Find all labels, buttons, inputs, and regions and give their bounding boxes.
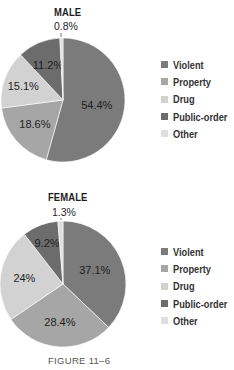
slice-label-violent: 54.4% — [81, 99, 112, 111]
legend-label: Other — [173, 315, 198, 327]
legend-swatch-violent — [161, 248, 168, 255]
male-legend: Violent Property Drug Public-order Other — [161, 56, 234, 142]
legend-label: Violent — [173, 59, 204, 71]
slice-label-public-order: 11.2% — [33, 59, 64, 71]
legend-swatch-violent — [161, 61, 168, 68]
legend-swatch-public-order — [161, 300, 168, 307]
female-chart-panel: 37.1%28.4%24%9.2% FEMALE 1.3% Violent Pr… — [0, 185, 234, 370]
legend-swatch-other — [161, 130, 168, 137]
legend-item-property: Property — [161, 260, 234, 277]
legend-label: Drug — [173, 93, 195, 105]
legend-item-property: Property — [161, 73, 234, 90]
legend-label: Public-order — [173, 298, 227, 310]
female-other-label: 1.3% — [52, 206, 76, 218]
legend-swatch-property — [161, 265, 168, 272]
male-other-label: 0.8% — [54, 20, 78, 32]
legend-item-other: Other — [161, 312, 234, 329]
legend-label: Property — [173, 76, 211, 88]
legend-swatch-property — [161, 78, 168, 85]
female-legend: Violent Property Drug Public-order Other — [161, 243, 234, 329]
slice-label-property: 18.6% — [19, 118, 50, 130]
female-chart-title: FEMALE — [48, 191, 87, 203]
legend-label: Drug — [173, 280, 195, 292]
legend-swatch-drug — [161, 283, 168, 290]
male-chart-panel: 54.4%18.6%15.1%11.2% MALE 0.8% Violent P… — [0, 0, 234, 185]
legend-item-violent: Violent — [161, 56, 234, 73]
slice-label-drug: 24% — [13, 272, 35, 284]
legend-item-public-order: Public-order — [161, 295, 234, 312]
legend-swatch-drug — [161, 96, 168, 103]
male-chart-title: MALE — [54, 6, 81, 18]
legend-label: Property — [173, 263, 211, 275]
slice-label-violent: 37.1% — [79, 264, 110, 276]
legend-label: Other — [173, 128, 198, 140]
legend-item-violent: Violent — [161, 243, 234, 260]
figure-caption: FIGURE 11–6 — [48, 355, 110, 366]
legend-label: Violent — [173, 246, 204, 258]
legend-item-drug: Drug — [161, 91, 234, 108]
legend-label: Public-order — [173, 111, 227, 123]
legend-swatch-public-order — [161, 113, 168, 120]
slice-label-public-order: 9.2% — [34, 237, 59, 249]
legend-swatch-other — [161, 317, 168, 324]
legend-item-public-order: Public-order — [161, 108, 234, 125]
legend-item-other: Other — [161, 125, 234, 142]
slice-label-drug: 15.1% — [8, 80, 39, 92]
legend-item-drug: Drug — [161, 278, 234, 295]
slice-label-property: 28.4% — [44, 316, 75, 328]
